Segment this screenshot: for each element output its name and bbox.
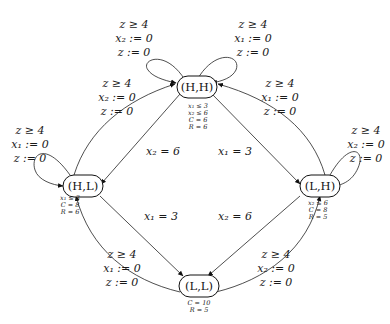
- node-hh: (H,H) x₁ ≤ 3 x₂ ≤ 6 C = 6 R = 6: [177, 76, 217, 131]
- svg-text:x₁ := 0: x₁ := 0: [103, 262, 141, 275]
- svg-text:z ≥ 4: z ≥ 4: [118, 18, 148, 31]
- node-ll: (L,L) C = 10 R = 5: [179, 275, 219, 314]
- svg-text:x₂ := 0: x₂ := 0: [257, 262, 295, 275]
- label-lh-to-ll: x₂ = 6: [218, 210, 252, 223]
- node-lh: (L,H) x₂ ≤ 6 C = 8 R = 5: [300, 175, 340, 221]
- svg-text:z := 0: z := 0: [105, 276, 139, 289]
- timed-automaton-diagram: (H,H) x₁ ≤ 3 x₂ ≤ 6 C = 6 R = 6 (H,L) x₁…: [0, 0, 390, 324]
- label-ll-to-lh: z ≥ 4 x₂ := 0 z := 0: [257, 248, 295, 289]
- node-ll-label: (L,L): [185, 279, 213, 293]
- label-lh-to-hh: z ≥ 4 x₁ := 0 z := 0: [261, 77, 299, 118]
- label-hl-to-hh: z ≥ 4 x₂ := 0 z := 0: [98, 77, 136, 118]
- node-lh-reward: R = 5: [308, 213, 328, 221]
- svg-text:z := 0: z := 0: [13, 152, 47, 165]
- svg-text:z := 0: z := 0: [117, 46, 151, 59]
- node-ll-reward: R = 5: [189, 306, 209, 314]
- node-hh-reward: R = 6: [188, 123, 208, 131]
- edge-hh-self-left: [146, 59, 185, 83]
- svg-text:x₂ := 0: x₂ := 0: [115, 32, 153, 45]
- svg-text:z := 0: z := 0: [259, 276, 293, 289]
- svg-text:z ≥ 4: z ≥ 4: [264, 77, 294, 90]
- svg-text:x₁ := 0: x₁ := 0: [261, 91, 299, 104]
- svg-text:z := 0: z := 0: [349, 152, 383, 165]
- label-hh-self-left: z ≥ 4 x₂ := 0 z := 0: [115, 18, 153, 59]
- svg-text:z := 0: z := 0: [100, 105, 134, 118]
- svg-text:z ≥ 4: z ≥ 4: [237, 18, 267, 31]
- label-hl-to-ll: x₁ = 3: [144, 210, 178, 223]
- node-hl-label: (H,L): [68, 179, 98, 193]
- svg-text:x₂ := 0: x₂ := 0: [347, 138, 385, 151]
- label-hh-to-lh: x₁ = 3: [218, 145, 252, 158]
- svg-text:z ≥ 4: z ≥ 4: [106, 248, 136, 261]
- node-hl-reward: R = 6: [60, 208, 80, 216]
- label-hh-self-right: z ≥ 4 x₁ := 0 z := 0: [234, 18, 272, 59]
- node-hh-label: (H,H): [181, 80, 214, 94]
- svg-text:x₁ := 0: x₁ := 0: [11, 138, 49, 151]
- svg-text:z ≥ 4: z ≥ 4: [350, 124, 380, 137]
- node-hl: (H,L) x₁ ≤ 3 C = 8 R = 6: [60, 175, 103, 216]
- label-hh-to-hl: x₂ = 6: [146, 145, 180, 158]
- svg-text:z := 0: z := 0: [263, 105, 297, 118]
- svg-text:z ≥ 4: z ≥ 4: [14, 124, 44, 137]
- svg-text:z ≥ 4: z ≥ 4: [101, 77, 131, 90]
- svg-text:x₁ := 0: x₁ := 0: [234, 32, 272, 45]
- node-lh-label: (L,H): [305, 179, 335, 193]
- label-lh-self: z ≥ 4 x₂ := 0 z := 0: [347, 124, 385, 165]
- label-hl-self: z ≥ 4 x₁ := 0 z := 0: [11, 124, 49, 165]
- svg-text:z ≥ 4: z ≥ 4: [260, 248, 290, 261]
- svg-text:z := 0: z := 0: [236, 46, 270, 59]
- label-ll-to-hl: z ≥ 4 x₁ := 0 z := 0: [103, 248, 141, 289]
- svg-text:x₂ := 0: x₂ := 0: [98, 91, 136, 104]
